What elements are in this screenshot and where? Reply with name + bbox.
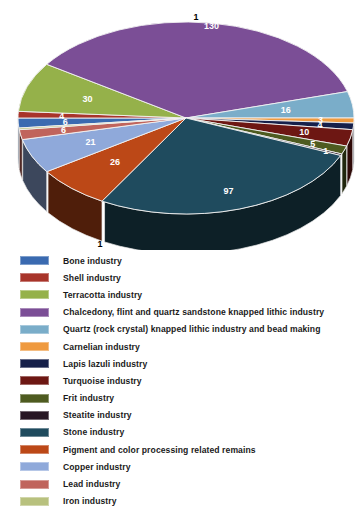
legend-swatch [20,462,49,471]
pie-slice-value-label: 30 [82,94,92,104]
pie-slice-value-label: 4 [317,120,322,130]
legend-item-label: Lapis lazuli industry [63,359,147,369]
pie-slice-value-label: 6 [61,125,66,135]
legend-item[interactable]: Pigment and color processing related rem… [0,441,360,458]
legend-item-label: Turquoise industry [63,376,142,386]
legend-item[interactable]: Carnelian industry [0,338,360,355]
legend-item-label: Iron industry [63,496,117,506]
legend-swatch [20,308,49,317]
legend-swatch [20,480,49,489]
pie-slice-value-label: 10 [299,127,309,137]
legend-item[interactable]: Turquoise industry [0,372,360,389]
legend-swatch [20,376,49,385]
legend-item-label: Carnelian industry [63,342,140,352]
legend-item[interactable]: Terracotta industry [0,286,360,303]
pie-slice-value-label: 16 [281,105,291,115]
pie-slice-value-label-lead: 1 [193,12,198,22]
pie-slice-value-label: 130 [204,21,219,31]
pie-top-faces [18,22,354,214]
pie-slice-value-label: 5 [310,139,315,149]
legend-item[interactable]: Steatite industry [0,407,360,424]
pie-slice-value-label: 26 [110,157,120,167]
legend-swatch [20,411,49,420]
legend-item-label: Stone industry [63,427,124,437]
legend-swatch [20,445,49,454]
pie-slice-value-label: 4 [59,111,64,121]
pie-chart-svg: 6430130163410519726216111 [0,0,360,250]
pie-slice-value-label: 21 [85,137,95,147]
legend-item[interactable]: Shell industry [0,269,360,286]
legend-swatch [20,428,49,437]
pie-slice-value-label: 1 [323,146,328,156]
legend-swatch [20,325,49,334]
legend-item[interactable]: Stone industry [0,424,360,441]
legend-item-label: Steatite industry [63,410,132,420]
legend-swatch [20,359,49,368]
legend-item[interactable]: Iron industry [0,493,360,510]
legend-item-label: Copper industry [63,462,131,472]
legend-item-label: Terracotta industry [63,290,142,300]
legend-swatch [20,273,49,282]
legend-item[interactable]: Frit industry [0,390,360,407]
legend-item-label: Chalcedony, flint and quartz sandstone k… [63,307,324,317]
legend-swatch [20,290,49,299]
legend-item-label: Pigment and color processing related rem… [63,445,256,455]
legend-swatch [20,256,49,265]
legend-item-label: Bone industry [63,256,122,266]
legend-item[interactable]: Chalcedony, flint and quartz sandstone k… [0,304,360,321]
legend-item[interactable]: Quartz (rock crystal) knapped lithic ind… [0,321,360,338]
legend-item[interactable]: Copper industry [0,458,360,475]
legend-swatch [20,342,49,351]
legend-item[interactable]: Lapis lazuli industry [0,355,360,372]
legend-item-label: Shell industry [63,273,121,283]
pie-slice-value-label-iron: 1 [97,239,102,249]
legend-item[interactable]: Bone industry [0,252,360,269]
pie-chart: 6430130163410519726216111 [0,0,360,250]
legend-swatch [20,394,49,403]
legend-item-label: Quartz (rock crystal) knapped lithic ind… [63,324,321,334]
pie-slice-value-label: 97 [224,186,234,196]
legend-item-label: Frit industry [63,393,114,403]
legend-item-label: Lead industry [63,479,120,489]
legend-swatch [20,497,49,506]
legend-item[interactable]: Lead industry [0,475,360,492]
chart-legend: Bone industryShell industryTerracotta in… [0,252,360,510]
